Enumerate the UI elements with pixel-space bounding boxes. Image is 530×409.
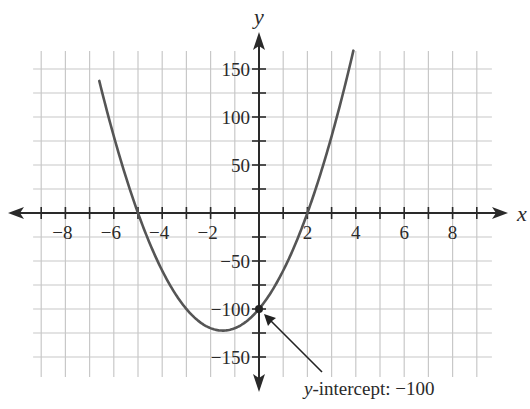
x-tick-label: 4 — [351, 222, 361, 243]
y-tick-label: −100 — [211, 299, 250, 320]
y-tick-label: 100 — [222, 107, 251, 128]
annotation — [255, 305, 322, 372]
x-tick-label: −8 — [52, 222, 72, 243]
x-axis-label: x — [516, 201, 527, 226]
x-tick-label: −6 — [101, 222, 121, 243]
x-tick-label: −4 — [149, 222, 170, 243]
y-intercept-label: y-intercept: −100 — [302, 378, 434, 399]
x-tick-label: −2 — [197, 222, 217, 243]
annotation-arrow-line — [268, 318, 322, 372]
y-intercept-point — [255, 305, 263, 313]
axes — [8, 32, 508, 392]
y-tick-label: −50 — [220, 251, 250, 272]
parabola-chart: −8−6−4−2246815010050−50−100−150 x y y-in… — [0, 0, 530, 409]
y-tick-label: 150 — [222, 59, 251, 80]
y-axis-label: y — [252, 4, 264, 29]
x-tick-label: 6 — [399, 222, 409, 243]
y-tick-label: 50 — [231, 155, 250, 176]
y-tick-label: −150 — [211, 347, 250, 368]
x-tick-label: 8 — [448, 222, 458, 243]
